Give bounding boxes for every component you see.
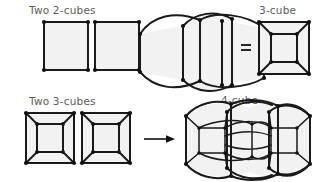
row2-4-cube (184, 100, 312, 180)
row1-two-squares (42, 20, 141, 72)
row1-3-cube (257, 20, 311, 76)
diagram-svg (0, 0, 318, 182)
square-b (93, 20, 141, 72)
square-a (42, 20, 90, 72)
figure-canvas: Two 2-cubes 3-cube Two 3-cubes 4-cube (0, 0, 318, 182)
cube-a (24, 111, 76, 165)
row1-joined-squares (138, 14, 266, 93)
row2-two-3-cubes (24, 111, 132, 165)
cube-b (80, 111, 132, 165)
row2-arrow-right-icon (144, 135, 175, 142)
